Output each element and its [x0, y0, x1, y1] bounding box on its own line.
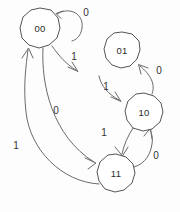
arrowhead-00-01 — [68, 62, 78, 72]
edge-10-to-11: 1 — [101, 127, 133, 156]
edge-label-00-11: 0 — [53, 105, 59, 116]
state-label-01: 01 — [116, 45, 127, 56]
edge-label-11-10: 0 — [153, 150, 159, 161]
edge-00-to-01: 1 — [52, 46, 78, 72]
edge-00-to-00: 0 — [56, 7, 89, 41]
edge-label-00-01: 1 — [71, 51, 77, 62]
state-label-11: 11 — [111, 168, 121, 179]
state-node-01[interactable]: 01 — [104, 32, 140, 68]
edge-11-to-00: 1 — [13, 48, 99, 184]
state-label-00: 00 — [34, 23, 45, 34]
state-node-10[interactable]: 10 — [125, 93, 163, 131]
edge-label-00-self: 0 — [83, 7, 89, 18]
state-label-10: 10 — [138, 107, 149, 118]
state-node-00[interactable]: 00 — [20, 8, 60, 48]
edge-path-10-11 — [122, 128, 133, 154]
state-diagram-canvas: 0 1 0 1 0 1 — [0, 0, 180, 212]
edge-01-to-10: 1 — [99, 76, 121, 102]
edge-label-10-11: 1 — [101, 127, 107, 138]
edge-label-10-01: 0 — [156, 65, 162, 76]
edge-11-to-10: 0 — [130, 128, 159, 168]
state-node-11[interactable]: 11 — [97, 154, 135, 192]
edge-path-00-self — [57, 11, 82, 41]
arrowhead-01-10 — [111, 92, 121, 102]
edge-label-01-10: 1 — [103, 81, 109, 92]
edge-path-10-01 — [140, 66, 153, 94]
state-diagram: 0 1 0 1 0 1 — [0, 0, 180, 212]
edge-path-11-00 — [25, 50, 99, 184]
edge-path-11-10 — [130, 130, 152, 168]
edge-path-01-10 — [99, 76, 119, 100]
edge-10-to-01: 0 — [139, 65, 163, 95]
edge-00-to-11: 0 — [43, 48, 96, 169]
edge-label-11-00: 1 — [13, 140, 19, 151]
